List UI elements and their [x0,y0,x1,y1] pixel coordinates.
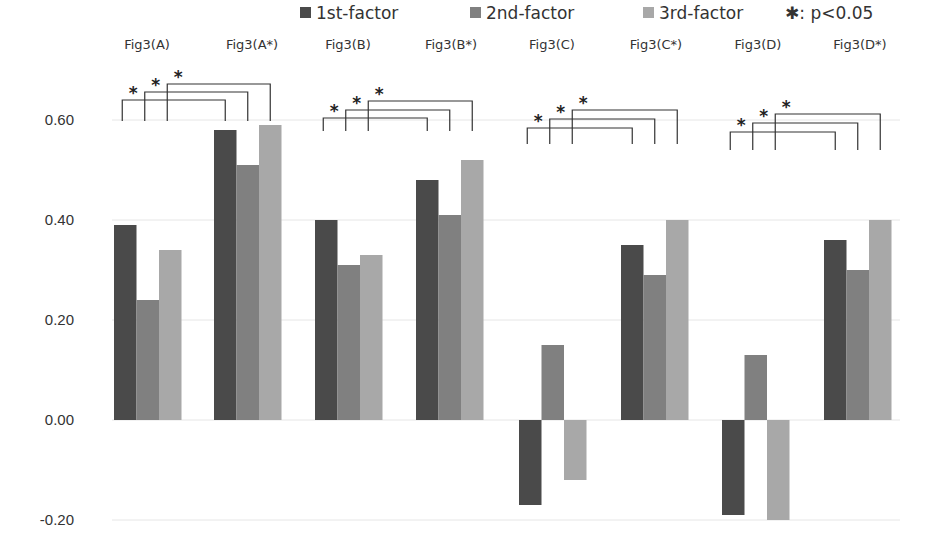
significance-asterisk: * [579,93,588,113]
legend-significance: ✱: p<0.05 [785,3,873,23]
y-axis: -0.200.000.200.400.60 [40,111,74,528]
legend-label-3rd-factor: 3rd-factor [659,3,743,23]
bar-2nd-factor-Fig3(B) [338,265,361,420]
significance-asterisk: * [330,101,339,121]
significance-asterisk: * [556,102,565,122]
bar-3rd-factor-Fig3(B) [360,255,383,420]
significance-bracket [527,128,632,144]
bar-2nd-factor-Fig3(C) [542,345,565,420]
bar-2nd-factor-Fig3(B*) [439,215,462,420]
legend-label-2nd-factor: 2nd-factor [486,3,574,23]
bar-2nd-factor-Fig3(C*) [644,275,667,420]
significance-bracket [730,132,835,150]
bar-1st-factor-Fig3(B) [315,220,338,420]
significance-asterisk: * [534,111,543,131]
bars [114,125,892,520]
bar-1st-factor-Fig3(C) [519,420,542,505]
bar-1st-factor-Fig3(C*) [621,245,644,420]
bar-3rd-factor-Fig3(C*) [666,220,689,420]
group-label: Fig3(A*) [226,37,278,52]
bar-1st-factor-Fig3(B*) [416,180,439,420]
legend: 1st-factor2nd-factor3rd-factor✱: p<0.05 [300,3,873,23]
significance-bracket [753,123,858,150]
significance-bracket [167,84,270,121]
bar-3rd-factor-Fig3(C) [564,420,587,480]
bar-2nd-factor-Fig3(D*) [847,270,870,420]
bar-3rd-factor-Fig3(A*) [259,125,282,420]
bar-1st-factor-Fig3(A*) [214,130,237,420]
significance-bracket [572,110,677,144]
y-tick-label: 0.00 [45,411,74,428]
significance-asterisk: * [782,97,791,117]
bar-2nd-factor-Fig3(A) [137,300,160,420]
bar-3rd-factor-Fig3(B*) [461,160,484,420]
group-label: Fig3(C*) [630,37,682,52]
group-label: Fig3(A) [124,37,170,52]
bar-2nd-factor-Fig3(D) [745,355,768,420]
y-tick-label: 0.20 [45,311,74,328]
significance-bracket [145,92,248,121]
significance-asterisk: * [759,106,768,126]
significance-bracket [368,101,472,131]
significance-asterisk: * [129,83,138,103]
group-label: Fig3(D*) [833,37,886,52]
bar-2nd-factor-Fig3(A*) [237,165,260,420]
significance-asterisk: * [174,67,183,87]
group-label: Fig3(B) [325,37,371,52]
legend-swatch-1st-factor [300,7,311,18]
group-label: Fig3(D) [735,37,782,52]
group-label: Fig3(B*) [425,37,477,52]
bar-3rd-factor-Fig3(A) [159,250,182,420]
bar-3rd-factor-Fig3(D*) [869,220,892,420]
significance-asterisk: * [151,75,160,95]
significance-bracket [550,119,655,144]
bar-chart: -0.200.000.200.400.60 ************ Fig3(… [0,0,929,556]
significance-asterisk: * [737,115,746,135]
significance-asterisk: * [375,84,384,104]
legend-label-1st-factor: 1st-factor [316,3,398,23]
bar-1st-factor-Fig3(A) [114,225,137,420]
legend-swatch-3rd-factor [643,7,654,18]
y-tick-label: -0.20 [40,511,74,528]
y-tick-label: 0.60 [45,111,74,128]
bar-1st-factor-Fig3(D) [722,420,745,515]
significance-asterisk: * [352,93,361,113]
bar-1st-factor-Fig3(D*) [824,240,847,420]
group-labels: Fig3(A)Fig3(A*)Fig3(B)Fig3(B*)Fig3(C)Fig… [124,37,887,52]
legend-swatch-2nd-factor [470,7,481,18]
significance-bracket [122,100,225,121]
y-tick-label: 0.40 [45,211,74,228]
bar-3rd-factor-Fig3(D) [767,420,790,520]
group-label: Fig3(C) [529,37,575,52]
